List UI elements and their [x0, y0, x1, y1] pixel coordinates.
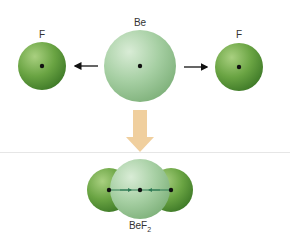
bef2-label-sub: 2: [147, 226, 151, 233]
nucleus-dot: [237, 65, 241, 69]
f-atom-left: [18, 42, 66, 90]
befe2-diagram: Be F F BeF2: [0, 0, 290, 246]
be-atom: [104, 30, 176, 102]
f-atom-right: [215, 43, 263, 91]
nucleus-dot: [138, 64, 142, 68]
f-right-label: F: [236, 29, 242, 40]
bef2-label: BeF2: [129, 220, 151, 233]
nucleus-dot: [40, 64, 44, 68]
bef2-label-main: BeF: [129, 220, 147, 231]
arrow-down-icon: [126, 110, 154, 152]
f-left-label: F: [39, 29, 45, 40]
bef2-molecule: [87, 159, 193, 219]
be-label: Be: [134, 17, 146, 28]
